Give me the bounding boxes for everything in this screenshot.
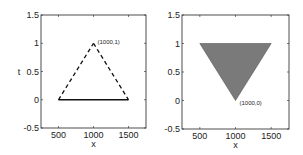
x-axis-label: x [233,140,238,150]
series-right-edge [94,43,129,100]
y-tick-label: 1 [175,39,180,49]
x-tick-label: 1500 [118,130,138,140]
point-annotation: (1000,0) [240,100,262,106]
y-axis-label: t [18,67,21,77]
left-plot: 50010001500-0.500.511.5xt(1000,1) [18,10,146,149]
y-tick-label: -0.5 [23,123,39,133]
point-annotation: (1000,1) [98,39,120,45]
right-plot: 50010001500-0.500.511.5x(1000,0) [164,10,289,150]
axes-frame [41,15,146,128]
y-tick-label: 1.5 [26,10,39,20]
y-tick-label: 1.5 [167,10,180,20]
x-tick-label: 1500 [261,131,281,141]
x-axis-label: x [91,139,96,149]
y-tick-label: 0.5 [26,67,39,77]
x-tick-label: 500 [192,131,207,141]
y-tick-label: 0 [34,95,39,105]
y-tick-label: 0 [175,96,180,106]
series-filled-triangle [200,44,271,101]
y-tick-label: 1 [34,38,39,48]
y-tick-label: 0.5 [167,67,180,77]
x-tick-label: 500 [51,130,66,140]
figure: 50010001500-0.500.511.5xt(1000,1) 500100… [0,0,303,155]
y-tick-label: -0.5 [164,124,180,134]
series-left-edge [59,43,94,100]
